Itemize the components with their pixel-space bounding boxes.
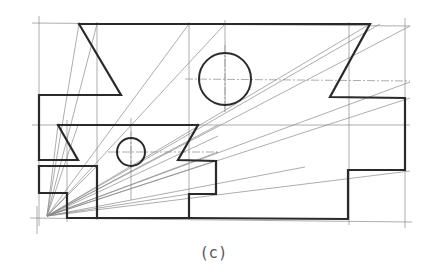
oblique-projection-drawing	[0, 0, 429, 278]
figure-caption: (c)	[0, 244, 429, 262]
upper-left-notch	[39, 24, 121, 160]
